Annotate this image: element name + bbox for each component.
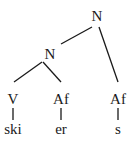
node-v: V	[8, 91, 19, 107]
edge-root-to-af2	[99, 27, 118, 82]
edge-root-to-mid-n	[61, 27, 92, 44]
leaf-er: er	[55, 121, 67, 137]
syntax-tree: N N V Af Af ski er s	[0, 0, 137, 144]
node-af-2: Af	[110, 91, 126, 107]
edge-mid-n-to-af1	[43, 62, 61, 82]
node-af-1: Af	[53, 91, 69, 107]
edge-mid-n-to-v	[14, 62, 42, 82]
leaf-s: s	[115, 121, 121, 137]
node-mid-n: N	[45, 46, 56, 62]
node-root-n: N	[92, 8, 103, 24]
leaf-ski: ski	[4, 121, 22, 137]
